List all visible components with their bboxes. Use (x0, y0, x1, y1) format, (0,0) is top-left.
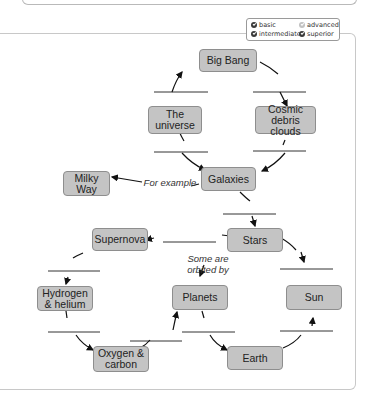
node-label: Galaxies (208, 174, 249, 185)
node-oxygen-carbon: Oxygen & carbon (93, 346, 149, 372)
label-for-example: For example (140, 177, 200, 188)
node-supernova: Supernova (92, 228, 148, 251)
node-label: Sun (305, 292, 324, 303)
node-milky-way: Milky Way (63, 171, 110, 196)
node-label: Stars (243, 235, 268, 246)
node-planets: Planets (172, 285, 228, 310)
node-label: The universe (149, 109, 201, 131)
node-hydrogen-helium: Hydrogen & helium (37, 286, 93, 311)
node-big-bang: Big Bang (199, 49, 257, 72)
node-earth: Earth (227, 346, 283, 370)
node-label: Oxygen & carbon (94, 348, 148, 370)
connector-lines (0, 0, 370, 405)
node-label: Earth (242, 353, 267, 364)
node-sun: Sun (286, 285, 342, 310)
node-label: Supernova (95, 234, 146, 245)
node-label: Cosmic debris clouds (256, 104, 315, 137)
node-label: Milky Way (64, 173, 109, 195)
node-label: Hydrogen & helium (38, 288, 92, 310)
label-some-orbited: Some are orbited by (186, 253, 230, 275)
node-stars: Stars (227, 228, 283, 252)
node-universe: The universe (148, 106, 202, 134)
node-label: Planets (182, 292, 217, 303)
node-label: Big Bang (207, 55, 250, 66)
node-cosmic-debris: Cosmic debris clouds (255, 106, 316, 134)
node-galaxies: Galaxies (201, 167, 256, 191)
